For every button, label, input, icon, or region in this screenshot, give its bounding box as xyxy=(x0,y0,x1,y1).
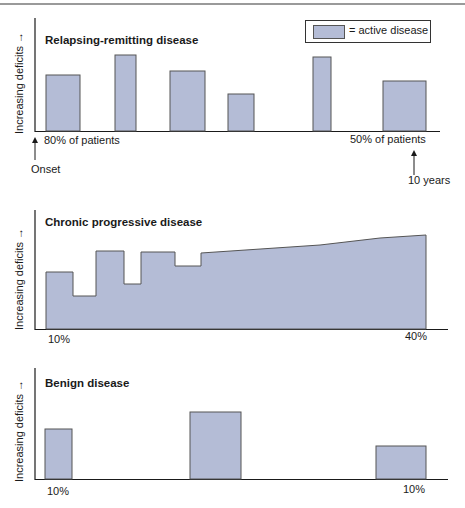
legend-label: = active disease xyxy=(349,24,428,36)
panel3-bars xyxy=(45,412,426,479)
panel2-end-label: 40% xyxy=(405,330,427,342)
y-axis-label: Increasing deficits → xyxy=(13,380,25,482)
onset-label: Onset xyxy=(31,163,60,175)
legend-swatch xyxy=(313,25,345,39)
panel2-area xyxy=(46,235,426,329)
y-axis-label: Increasing deficits → xyxy=(13,228,25,330)
chart-graphics xyxy=(0,0,465,508)
panel1-bars xyxy=(46,55,426,131)
panel2-start-label: 10% xyxy=(48,333,70,345)
panel1-title: Relapsing-remitting disease xyxy=(45,34,198,46)
panel1-end-label: 50% of patients xyxy=(350,133,426,145)
panel3-start-label: 10% xyxy=(47,485,69,497)
panel3-end-label: 10% xyxy=(403,483,425,495)
panel2-title: Chronic progressive disease xyxy=(45,216,202,228)
panel3-title: Benign disease xyxy=(45,377,129,389)
panel1-start-label: 80% of patients xyxy=(44,134,120,146)
y-axis-label: Increasing deficits → xyxy=(13,32,25,134)
ten-years-label: 10 years xyxy=(408,174,450,186)
legend: = active disease xyxy=(305,20,431,43)
